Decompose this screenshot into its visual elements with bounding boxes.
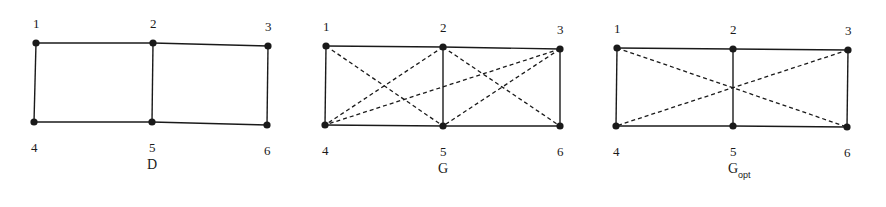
- graph-g: 123456G: [321, 19, 564, 176]
- node-2: [149, 39, 156, 46]
- solid-edge-2-3: [443, 47, 560, 49]
- node-label-1: 1: [614, 21, 621, 36]
- node-5: [439, 122, 446, 129]
- dashed-edge-3-4: [616, 50, 848, 126]
- solid-edge-1-4: [325, 46, 326, 125]
- node-label-3: 3: [845, 23, 852, 38]
- node-3: [556, 45, 563, 52]
- node-3: [264, 42, 271, 49]
- node-label-3: 3: [265, 19, 272, 34]
- node-2: [439, 43, 446, 50]
- solid-edge-1-4: [616, 48, 617, 126]
- dashed-edge-2-6: [443, 47, 560, 126]
- node-6: [843, 123, 850, 130]
- node-label-4: 4: [613, 144, 620, 159]
- graph-d: 123456D: [30, 16, 271, 172]
- solid-edge-5-6: [733, 126, 847, 127]
- node-4: [612, 122, 619, 129]
- node-label-6: 6: [264, 143, 271, 158]
- node-1: [32, 39, 39, 46]
- solid-edge-5-6: [152, 122, 267, 125]
- node-1: [322, 42, 329, 49]
- graph-title: D: [147, 157, 157, 172]
- graph-title: G: [438, 161, 448, 176]
- node-label-3: 3: [557, 22, 564, 37]
- solid-edge-2-3: [153, 43, 268, 46]
- node-label-2: 2: [440, 20, 447, 35]
- solid-edge-2-3: [733, 49, 848, 50]
- solid-edge-3-6: [267, 46, 268, 125]
- solid-edge-4-5: [325, 125, 443, 126]
- node-5: [148, 118, 155, 125]
- node-label-2: 2: [730, 22, 737, 37]
- node-6: [556, 122, 563, 129]
- node-label-5: 5: [149, 140, 156, 155]
- node-label-2: 2: [150, 16, 157, 31]
- node-label-1: 1: [33, 16, 40, 31]
- node-label-1: 1: [323, 19, 330, 34]
- solid-edge-3-6: [847, 50, 848, 127]
- graph-title: G: [728, 161, 738, 176]
- node-3: [844, 46, 851, 53]
- node-label-4: 4: [31, 140, 38, 155]
- node-2: [729, 45, 736, 52]
- node-label-4: 4: [322, 143, 329, 158]
- solid-edge-2-5: [152, 43, 153, 122]
- solid-edge-1-2: [326, 46, 443, 47]
- node-4: [321, 121, 328, 128]
- solid-edge-1-4: [34, 43, 36, 122]
- node-4: [30, 118, 37, 125]
- graph-g-opt: 123456Gopt: [612, 21, 851, 180]
- node-label-5: 5: [730, 144, 737, 159]
- node-label-5: 5: [440, 144, 447, 159]
- node-label-6: 6: [844, 145, 851, 160]
- graph-title-subscript: opt: [738, 170, 751, 180]
- node-1: [613, 44, 620, 51]
- node-5: [729, 122, 736, 129]
- solid-edge-1-2: [617, 48, 733, 49]
- node-6: [263, 121, 270, 128]
- graph-figure: 123456D 123456G 123456Gopt: [0, 0, 886, 207]
- node-label-6: 6: [557, 144, 564, 159]
